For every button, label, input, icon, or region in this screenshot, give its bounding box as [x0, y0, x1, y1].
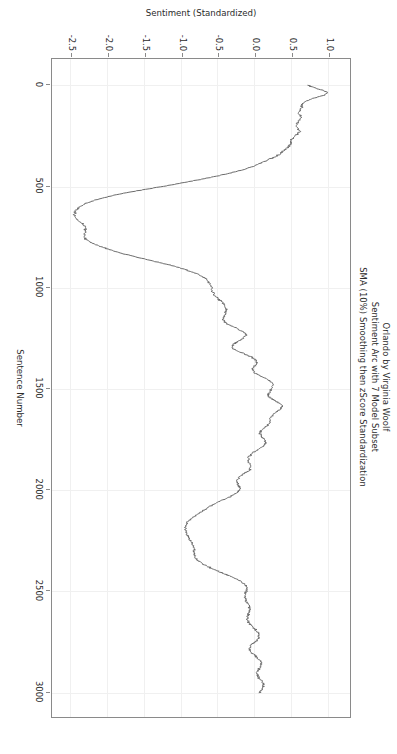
x-tick — [46, 287, 50, 288]
y-tick — [182, 53, 183, 57]
y-tick — [108, 53, 109, 57]
y-tick-label: -1.0 — [178, 18, 188, 51]
y-tick-label: 0.5 — [288, 18, 298, 51]
title-line-2: Sentiment Arc with 7 Model Subset — [368, 0, 379, 754]
x-tick-label: 1000 — [34, 276, 44, 297]
y-tick-label: 0.0 — [251, 18, 261, 51]
x-tick — [46, 489, 50, 490]
chart-screenshot: Orlando by Virginia Woolf Sentiment Arc … — [0, 0, 397, 754]
x-tick-label: 3000 — [34, 681, 44, 702]
y-tick — [292, 53, 293, 57]
x-axis-label: Sentence Number — [15, 58, 25, 718]
y-tick-label: -2.0 — [104, 18, 114, 51]
x-tick-label: 500 — [34, 178, 44, 194]
y-tick — [255, 53, 256, 57]
title-line-3: SMA (10%) Smoothing then zScore Standard… — [357, 0, 368, 754]
title-line-1: Orlando by Virginia Woolf — [380, 0, 391, 754]
y-axis-label: Sentiment (Standardized) — [51, 8, 351, 18]
y-tick-label: 1.0 — [325, 18, 335, 51]
y-tick-label: -1.5 — [141, 18, 151, 51]
series-path — [73, 85, 327, 692]
x-tick — [46, 590, 50, 591]
plot-area — [51, 58, 351, 718]
y-tick — [71, 53, 72, 57]
y-tick — [218, 53, 219, 57]
x-tick — [46, 84, 50, 85]
x-tick-label: 2000 — [34, 479, 44, 500]
matplotlib-figure: Orlando by Virginia Woolf Sentiment Arc … — [0, 0, 397, 754]
x-tick — [46, 186, 50, 187]
rotated-figure-wrapper: Orlando by Virginia Woolf Sentiment Arc … — [0, 0, 397, 754]
y-tick — [145, 53, 146, 57]
x-tick-label: 1500 — [34, 377, 44, 398]
sentiment-line-series — [51, 59, 350, 718]
x-tick-label: 2500 — [34, 580, 44, 601]
x-tick — [46, 692, 50, 693]
y-tick-label: -0.5 — [214, 18, 224, 51]
y-tick-label: -2.5 — [67, 18, 77, 51]
chart-title: Orlando by Virginia Woolf Sentiment Arc … — [357, 0, 391, 754]
x-tick — [46, 388, 50, 389]
y-tick — [329, 53, 330, 57]
x-tick-label: 0 — [34, 82, 44, 87]
